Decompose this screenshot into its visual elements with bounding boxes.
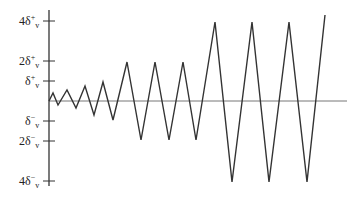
cyclic-loading-chart <box>0 0 361 200</box>
y-tick-label: 4δ−v <box>19 174 39 190</box>
y-tick-label: 4δ+v <box>19 14 39 30</box>
y-tick-label: δ+v <box>25 74 39 90</box>
displacement-series <box>49 15 325 182</box>
y-tick-label: 2δ−v <box>19 134 39 150</box>
y-tick-label: δ−v <box>25 114 39 130</box>
y-tick-label: 2δ+v <box>19 54 39 70</box>
